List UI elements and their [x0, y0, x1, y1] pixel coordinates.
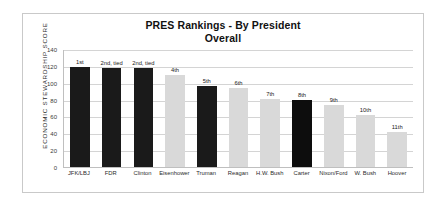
y-tick-label: 120	[47, 64, 57, 70]
bar-slot: 2nd, tied	[127, 50, 159, 167]
x-tick-label: Hoover	[381, 170, 413, 176]
y-tick-label: 40	[50, 131, 57, 137]
chart-subtitle: Overall	[23, 32, 423, 45]
chart-container: PRES Rankings - By President Overall ECO…	[22, 13, 424, 193]
x-tick-label: H.W. Bush	[254, 170, 286, 176]
plot-area: 1st2nd, tied2nd, tied4th5th6th7th8th9th1…	[63, 50, 413, 168]
bar[interactable]: 10th	[356, 115, 376, 167]
bar-series: 1st2nd, tied2nd, tied4th5th6th7th8th9th1…	[64, 50, 413, 167]
bar-slot: 11th	[381, 50, 413, 167]
x-tick-label: Clinton	[127, 170, 159, 176]
bar-slot: 1st	[64, 50, 96, 167]
bar-slot: 4th	[159, 50, 191, 167]
bar[interactable]: 2nd, tied	[134, 68, 154, 167]
x-tick-label: Carter	[286, 170, 318, 176]
bar-rank-label: 6th	[235, 80, 243, 86]
x-tick-label: Truman	[190, 170, 222, 176]
x-axis-labels: JFK/LBJFDRClintonEisenhowerTrumanReaganH…	[63, 170, 413, 176]
y-axis-ticks: 140120100806040200	[43, 50, 60, 168]
x-tick-label: Eisenhower	[158, 170, 190, 176]
bar-slot: 2nd, tied	[96, 50, 128, 167]
y-tick-label: 100	[47, 81, 57, 87]
y-tick-label: 80	[50, 98, 57, 104]
x-tick-label: Nixon/Ford	[318, 170, 350, 176]
y-tick-label: 60	[50, 114, 57, 120]
bar-slot: 8th	[286, 50, 318, 167]
chart-title: PRES Rankings - By President Overall	[23, 19, 423, 45]
y-tick-label: 140	[47, 47, 57, 53]
x-tick-label: FDR	[95, 170, 127, 176]
bar[interactable]: 5th	[197, 86, 217, 167]
bar-rank-label: 1st	[76, 59, 84, 65]
bar[interactable]: 11th	[387, 132, 407, 167]
bar-slot: 7th	[254, 50, 286, 167]
bar-rank-label: 7th	[266, 91, 274, 97]
bar-rank-label: 11th	[392, 124, 403, 130]
bar-rank-label: 2nd, tied	[100, 60, 122, 66]
y-tick-label: 20	[50, 148, 57, 154]
bar-slot: 9th	[318, 50, 350, 167]
x-tick-label: W. Bush	[349, 170, 381, 176]
y-tick-label: 0	[54, 165, 57, 171]
bar[interactable]: 4th	[165, 75, 185, 167]
bar-rank-label: 5th	[203, 78, 211, 84]
bar-slot: 6th	[223, 50, 255, 167]
bar-rank-label: 8th	[298, 92, 306, 98]
bar[interactable]: 1st	[70, 67, 90, 167]
bar-rank-label: 9th	[330, 97, 338, 103]
bar-rank-label: 4th	[171, 67, 179, 73]
x-tick-label: Reagan	[222, 170, 254, 176]
bar-slot: 5th	[191, 50, 223, 167]
bar-rank-label: 10th	[360, 107, 371, 113]
bar[interactable]: 6th	[229, 88, 249, 167]
bar[interactable]: 8th	[292, 100, 312, 167]
plot-wrapper: 140120100806040200 1st2nd, tied2nd, tied…	[43, 50, 415, 184]
bar[interactable]: 9th	[324, 105, 344, 167]
bar-slot: 10th	[350, 50, 382, 167]
x-tick-label: JFK/LBJ	[63, 170, 95, 176]
bar-rank-label: 2nd, tied	[132, 60, 154, 66]
chart-title-line1: PRES Rankings - By President	[145, 19, 300, 31]
bar[interactable]: 7th	[260, 99, 280, 167]
bar[interactable]: 2nd, tied	[102, 68, 122, 167]
